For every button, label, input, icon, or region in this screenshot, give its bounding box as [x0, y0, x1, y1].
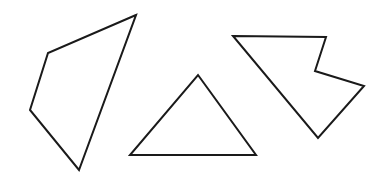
shapes-svg — [0, 0, 388, 178]
shape-canvas — [0, 0, 388, 178]
